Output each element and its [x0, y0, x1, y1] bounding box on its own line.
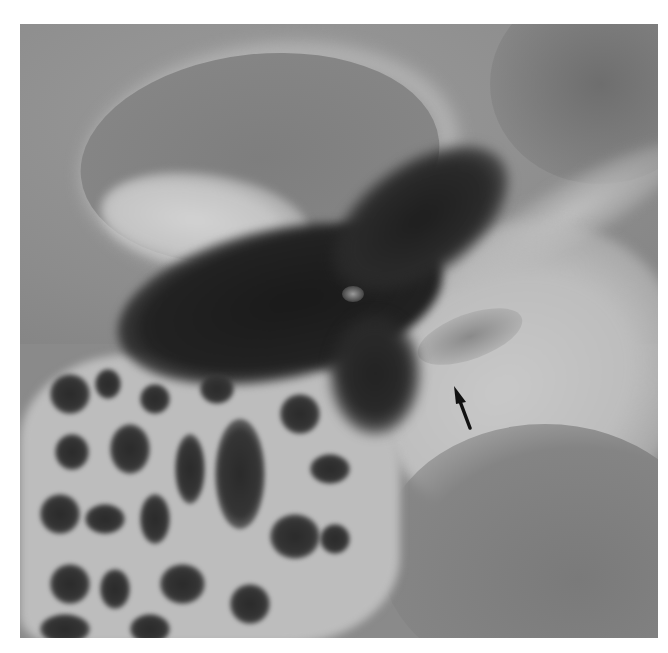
- ossicle-spot: [342, 286, 364, 302]
- air-cell: [110, 424, 150, 474]
- air-cell: [215, 419, 265, 529]
- air-cell: [100, 569, 130, 609]
- ct-scan-image: [20, 24, 658, 638]
- air-cell: [140, 384, 170, 414]
- air-cell: [140, 494, 170, 544]
- air-cavity-lower: [330, 314, 420, 434]
- air-cell: [40, 614, 90, 638]
- air-cell: [40, 494, 80, 534]
- air-cell: [50, 374, 90, 414]
- air-cell: [85, 504, 125, 534]
- air-cell: [310, 454, 350, 484]
- air-cell: [95, 369, 121, 399]
- air-cell: [280, 394, 320, 434]
- air-cell: [270, 514, 320, 559]
- air-cell: [50, 564, 90, 604]
- air-cell: [160, 564, 205, 604]
- air-cell: [175, 434, 205, 504]
- air-cell: [200, 374, 234, 404]
- air-cell: [230, 584, 270, 624]
- air-cell: [55, 434, 89, 470]
- air-cell: [130, 614, 170, 638]
- annotation-arrow-icon: [450, 382, 480, 432]
- air-cell: [320, 524, 350, 554]
